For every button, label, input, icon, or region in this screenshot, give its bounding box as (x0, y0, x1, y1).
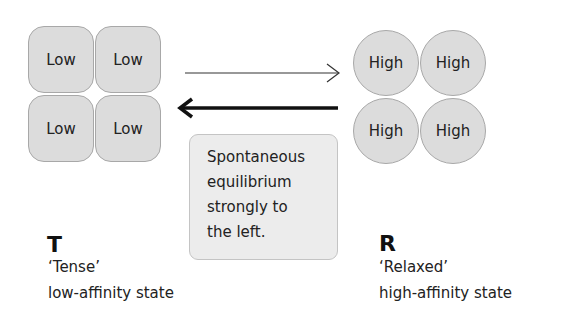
r-state-description: high-affinity state (379, 284, 512, 302)
forward-arrow-icon (185, 64, 339, 82)
t-state-name: ‘Tense’ (48, 258, 100, 276)
t-state-letter: T (47, 232, 62, 257)
note-line: the left. (207, 220, 327, 245)
note-line: equilibrium (207, 170, 327, 195)
note-line: strongly to (207, 195, 327, 220)
note-line: Spontaneous (207, 145, 327, 170)
r-state-name: ‘Relaxed’ (379, 258, 448, 276)
r-state-letter: R (379, 231, 396, 256)
reverse-arrow-icon (180, 99, 338, 117)
equilibrium-note: Spontaneous equilibrium strongly to the … (189, 134, 338, 260)
t-state-description: low-affinity state (48, 284, 174, 302)
